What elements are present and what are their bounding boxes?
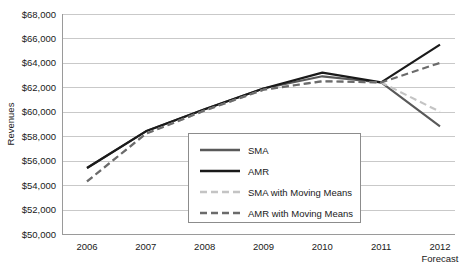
x-tick-label: 2011 xyxy=(371,241,391,252)
y-tick-label: $64,000 xyxy=(22,57,56,68)
y-tick-label: $52,000 xyxy=(22,204,56,215)
x-tick-label: 2012 xyxy=(429,241,450,252)
x-tick-label: 2010 xyxy=(312,241,333,252)
x-tick-label: 2008 xyxy=(194,241,215,252)
y-axis-title: Revenues xyxy=(5,102,16,145)
y-tick-label: $54,000 xyxy=(22,180,56,191)
y-tick-label: $62,000 xyxy=(22,82,56,93)
y-tick-label: $58,000 xyxy=(22,131,56,142)
y-tick-label: $60,000 xyxy=(22,106,56,117)
legend-label: AMR xyxy=(248,166,269,177)
x-tick-label: 2009 xyxy=(253,241,274,252)
y-axis-tick-labels: $68,000$66,000$64,000$62,000$60,000$58,0… xyxy=(22,9,56,240)
x-tick-label: 2007 xyxy=(135,241,156,252)
y-tick-label: $68,000 xyxy=(22,9,56,20)
x-tick-label: 2006 xyxy=(76,241,97,252)
revenue-forecast-chart: $68,000$66,000$64,000$62,000$60,000$58,0… xyxy=(0,0,464,268)
legend-label: AMR with Moving Means xyxy=(248,208,353,219)
y-tick-label: $50,000 xyxy=(22,229,56,240)
y-tick-label: $56,000 xyxy=(22,155,56,166)
y-tick-label: $66,000 xyxy=(22,33,56,44)
legend-label: SMA with Moving Means xyxy=(248,187,352,198)
x-axis-tick-labels: 2006200720082009201020112012 xyxy=(76,241,450,252)
chart-legend: SMAAMRSMA with Moving MeansAMR with Movi… xyxy=(189,134,361,223)
chart-canvas: $68,000$66,000$64,000$62,000$60,000$58,0… xyxy=(0,0,464,268)
x-axis-forecast-note: Forecast xyxy=(422,253,459,264)
legend-label: SMA xyxy=(248,145,269,156)
